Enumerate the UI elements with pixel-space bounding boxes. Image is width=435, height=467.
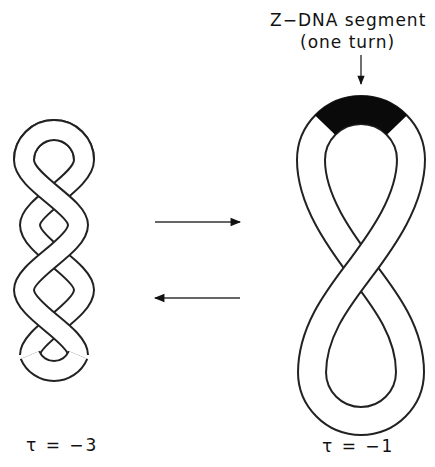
left-supercoil xyxy=(24,130,84,371)
tau-left-label: τ = −3 xyxy=(26,435,98,455)
zdna-label: Z−DNA segment xyxy=(270,10,426,30)
tau-right-label: τ = −1 xyxy=(322,436,394,456)
right-figure-eight xyxy=(311,55,411,421)
zdna-segment xyxy=(325,110,397,125)
equilibrium-arrows xyxy=(155,222,240,298)
diagram-canvas xyxy=(0,0,435,467)
zdna-sublabel: (one turn) xyxy=(300,32,395,52)
helix-band xyxy=(24,130,84,371)
